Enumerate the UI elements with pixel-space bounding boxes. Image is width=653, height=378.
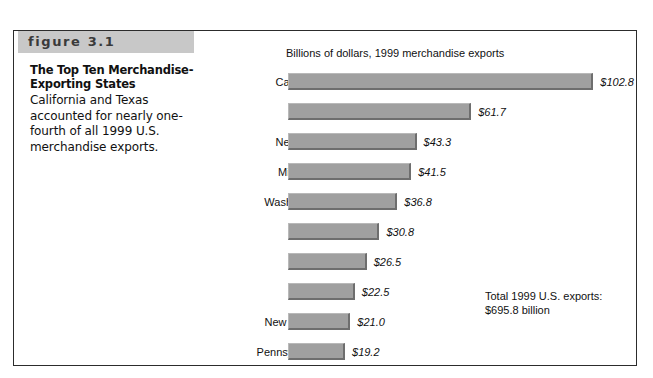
bar-value-label: $21.0 — [357, 313, 385, 332]
figure-caption-body: California and Texas accounted for nearl… — [30, 93, 198, 155]
total-exports-line1: Total 1999 U.S. exports: — [485, 289, 602, 303]
bar-shape — [288, 223, 379, 240]
bar-shape — [288, 103, 471, 120]
bar-shape — [288, 193, 397, 210]
bar-row: Washington$36.8 — [202, 193, 636, 212]
bar-value-label: $43.3 — [424, 133, 452, 152]
total-exports-note: Total 1999 U.S. exports: $695.8 billion — [485, 289, 602, 317]
bar-value-label: $36.8 — [404, 193, 432, 212]
bar-shape — [288, 133, 417, 150]
bar-value-label: $61.7 — [478, 103, 506, 122]
bar-value-label: $22.5 — [362, 283, 390, 302]
bar-shape — [288, 283, 355, 300]
figure-caption-panel: figure 3.1 The Top Ten Merchandise-Expor… — [14, 31, 202, 365]
bar-shape — [288, 343, 345, 360]
figure-caption-title: The Top Ten Merchandise-Exporting States — [30, 64, 196, 91]
bar-value-label: $102.8 — [600, 73, 634, 92]
bar-row: Michigan$41.5 — [202, 163, 636, 182]
bar-row: Texas$61.7 — [202, 103, 636, 122]
bar-row: Pennsylvania$19.2 — [202, 343, 636, 362]
bar-value-label: $30.8 — [386, 223, 414, 242]
chart-title: Billions of dollars, 1999 merchandise ex… — [286, 47, 504, 59]
bar-row: Illinois$30.8 — [202, 223, 636, 242]
bar-row: California$102.8 — [202, 73, 636, 92]
bar-row: New York$43.3 — [202, 133, 636, 152]
bar-row: Ohio$26.5 — [202, 253, 636, 272]
figure-number-label: figure 3.1 — [28, 34, 115, 49]
bar-shape — [288, 313, 350, 330]
bar-shape — [288, 163, 411, 180]
bar-value-label: $26.5 — [374, 253, 402, 272]
bar-shape — [288, 253, 367, 270]
figure-frame: figure 3.1 The Top Ten Merchandise-Expor… — [13, 30, 637, 366]
bar-value-label: $41.5 — [418, 163, 446, 182]
bar-shape — [288, 73, 593, 90]
bar-chart: Billions of dollars, 1999 merchandise ex… — [202, 31, 636, 365]
bar-value-label: $19.2 — [352, 343, 380, 362]
total-exports-line2: $695.8 billion — [485, 303, 602, 317]
